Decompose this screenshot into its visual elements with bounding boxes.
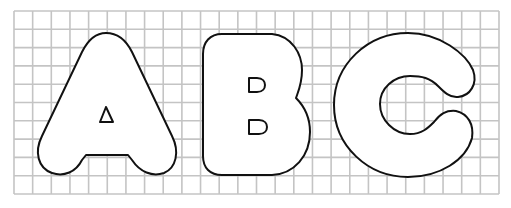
letter-c-outline [334,33,475,177]
letter-c [334,33,475,177]
letter-a-outline [38,33,176,174]
drawing [0,0,511,208]
letter-a [38,33,176,174]
letter-b [203,34,310,175]
letter-b-outline [203,34,310,175]
grid-paper-canvas: Bubble letters A B C on grid paper [0,0,511,208]
